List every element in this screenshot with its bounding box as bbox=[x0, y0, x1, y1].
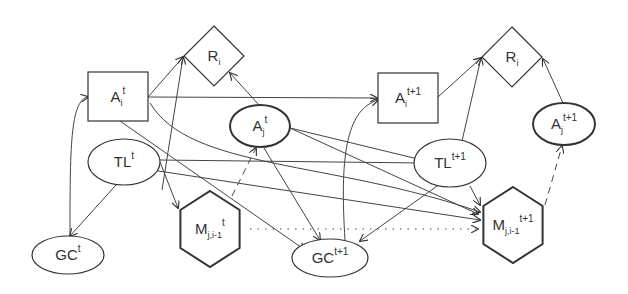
edge-dashed bbox=[545, 146, 562, 205]
rect-shape bbox=[378, 73, 438, 123]
node-ai-t1: Ait+1 bbox=[378, 73, 438, 123]
ellipse-shape bbox=[533, 103, 595, 145]
node-m-t: Mj,i-1t bbox=[180, 191, 239, 267]
hexagon-shape bbox=[180, 191, 239, 267]
edge-solid bbox=[70, 97, 88, 236]
node-ri-t1: Ri bbox=[482, 27, 542, 87]
node-label: TLt bbox=[114, 150, 135, 170]
nodes-layer: RiAitAjtTLtGCtMj,i-1tGCt+1Ait+1RiAjt+1TL… bbox=[32, 26, 595, 277]
node-tl-t: TLt bbox=[88, 139, 160, 185]
edge-solid bbox=[543, 59, 563, 103]
node-gc-t1: GCt+1 bbox=[292, 239, 368, 277]
edge-solid bbox=[470, 186, 480, 205]
edge-dashed bbox=[232, 148, 256, 196]
diagram-svg: RiAitAjtTLtGCtMj,i-1tGCt+1Ait+1RiAjt+1TL… bbox=[0, 0, 628, 294]
edge-solid bbox=[290, 128, 422, 160]
node-tl-t1: TLt+1 bbox=[414, 139, 486, 187]
edge-solid bbox=[462, 58, 481, 141]
node-ai-t: Ait bbox=[88, 72, 148, 121]
dynamic-network-diagram: RiAitAjtTLtGCtMj,i-1tGCt+1Ait+1RiAjt+1TL… bbox=[0, 0, 628, 294]
edge-solid bbox=[230, 73, 259, 105]
edge-solid bbox=[438, 58, 481, 97]
node-gc-t: GCt bbox=[32, 236, 104, 274]
node-m-t1: Mj,i-1t+1 bbox=[483, 187, 542, 263]
edge-solid bbox=[70, 185, 116, 236]
node-ri-t: Ri bbox=[184, 26, 244, 86]
edge-solid bbox=[160, 160, 422, 163]
edge-solid bbox=[148, 97, 377, 98]
edge-solid bbox=[343, 100, 378, 240]
node-label: GCt bbox=[55, 243, 81, 263]
node-aj-t1: Ajt+1 bbox=[533, 103, 595, 145]
node-aj-t: Ajt bbox=[230, 105, 290, 147]
